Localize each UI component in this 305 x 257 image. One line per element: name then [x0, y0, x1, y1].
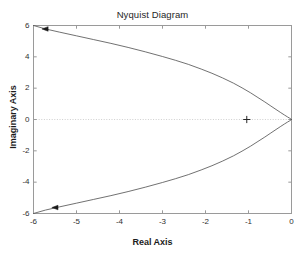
direction-arrow-upper: [42, 27, 48, 32]
y-tick-label: -6: [12, 209, 30, 218]
figure-canvas: Nyquist Diagram -6-5-4-3-2-10-6-4-20246 …: [0, 0, 305, 257]
x-tick-label: -2: [194, 217, 218, 226]
direction-arrow-lower: [52, 205, 58, 210]
x-tick-label: -4: [108, 217, 132, 226]
y-axis-label: Imaginary Axis: [8, 52, 18, 182]
x-axis-label: Real Axis: [0, 237, 305, 247]
x-tick-label: -1: [237, 217, 261, 226]
x-tick-label: -3: [151, 217, 175, 226]
nyquist-lower-branch: [34, 120, 292, 214]
critical-point: [243, 116, 250, 123]
x-tick-label: 0: [280, 217, 304, 226]
x-tick-label: -5: [65, 217, 89, 226]
nyquist-upper-branch: [34, 26, 292, 120]
y-tick-label: 6: [12, 21, 30, 30]
x-tick-label: -6: [22, 217, 46, 226]
